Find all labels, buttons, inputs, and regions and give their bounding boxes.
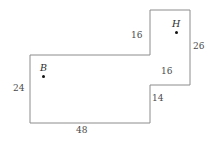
dim-step-vertical: 14 [152,94,163,103]
dim-top-left-vertical: 16 [131,31,142,40]
point-h-dot [175,31,178,34]
dim-right-vertical: 26 [193,42,204,51]
point-b-label: B [40,63,47,73]
dim-step-horizontal: 16 [161,67,172,76]
polygon-diagram [0,0,214,142]
dim-left-vertical: 24 [13,84,24,93]
point-h-label: H [172,19,180,29]
point-b-dot [42,75,45,78]
dim-bottom-horizontal: 48 [76,126,87,135]
